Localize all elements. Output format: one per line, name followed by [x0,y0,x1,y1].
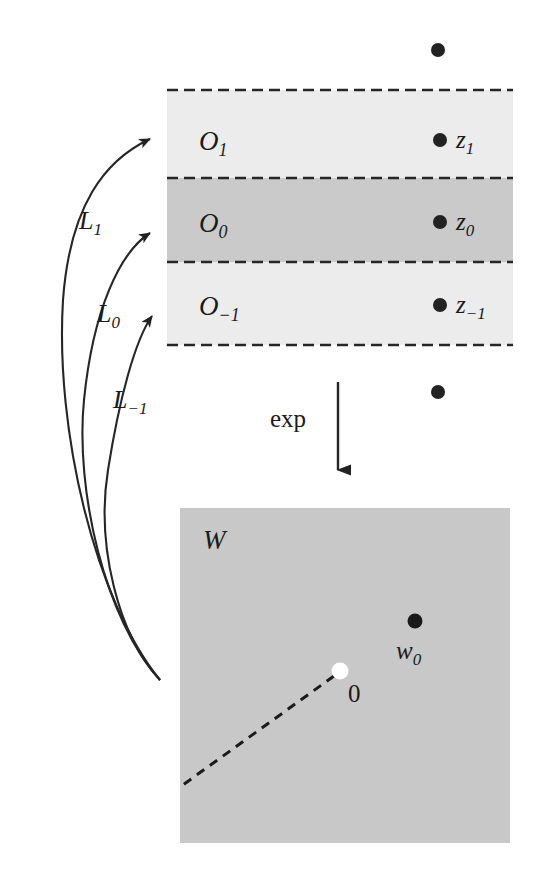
dot-below-strip [431,385,445,399]
dot-above-strip [431,43,445,57]
exp-arrow-label: exp [270,405,306,432]
point-z-1-dot [433,298,447,312]
w-plane-label: W [203,525,228,555]
w-plane-group: W 0 w0 [180,508,510,843]
strip-region: O1 O0 O−1 z1 z0 z−1 [167,43,513,399]
point-w0-dot [408,614,423,629]
point-z1-dot [433,133,447,147]
exp-map-diagram: O1 O0 O−1 z1 z0 z−1 [0,0,543,877]
origin-dot [332,663,349,680]
point-z0-dot [433,215,447,229]
origin-label: 0 [348,680,361,707]
